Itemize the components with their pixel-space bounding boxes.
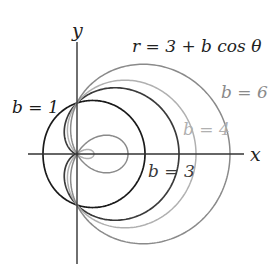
y-axis-label: y bbox=[71, 19, 83, 41]
x-axis-label: x bbox=[250, 143, 261, 165]
series-label-b-6: b = 6 bbox=[221, 82, 268, 102]
chart-title: r = 3 + b cos θ bbox=[132, 36, 261, 56]
series-label-b-1: b = 1 bbox=[12, 97, 59, 117]
polar-chart: x y r = 3 + b cos θ b = 1b = 3b = 4b = 6 bbox=[0, 0, 278, 264]
series-label-b-4: b = 4 bbox=[183, 119, 230, 139]
series-label-b-3: b = 3 bbox=[148, 161, 195, 181]
